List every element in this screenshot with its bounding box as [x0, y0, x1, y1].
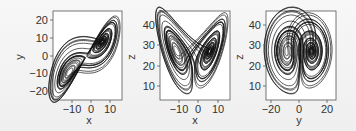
y-tick: 10	[143, 80, 155, 92]
y-tick: 20	[36, 14, 48, 26]
y-tick: 10	[249, 80, 261, 92]
y-tick: −10	[29, 67, 48, 79]
panel-yz: −20 0 20 40 30 20 10 y z	[233, 7, 336, 126]
lorenz-plots: −10 0 10 20 10 0 −10 −20 x y −10 0 10 40…	[0, 0, 356, 131]
y-tick: 40	[249, 19, 261, 31]
y-tick: 10	[36, 32, 48, 44]
x-tick: −20	[262, 103, 281, 115]
y-tick: 20	[143, 60, 155, 72]
x-tick: 20	[321, 103, 333, 115]
x-tick: −10	[63, 103, 82, 115]
x-axis-label: y	[296, 114, 302, 126]
y-tick: 20	[249, 60, 261, 72]
y-tick: 30	[249, 39, 261, 51]
figure: −10 0 10 20 10 0 −10 −20 x y −10 0 10 40…	[0, 0, 356, 131]
y-axis-label: y	[13, 54, 25, 60]
y-tick: 0	[42, 50, 48, 62]
panel-xz: −10 0 10 40 30 20 10 x z	[125, 7, 230, 126]
y-tick: 30	[143, 39, 155, 51]
x-tick: 10	[212, 103, 224, 115]
y-axis-label: z	[233, 54, 245, 60]
panel-xy: −10 0 10 20 10 0 −10 −20 x y	[13, 11, 122, 126]
y-tick: 40	[143, 19, 155, 31]
y-tick: −20	[29, 85, 48, 97]
x-axis-label: x	[86, 114, 92, 126]
y-axis-label: z	[125, 54, 137, 60]
x-tick: 10	[104, 103, 116, 115]
x-axis-label: x	[192, 114, 198, 126]
x-tick: −10	[170, 103, 189, 115]
